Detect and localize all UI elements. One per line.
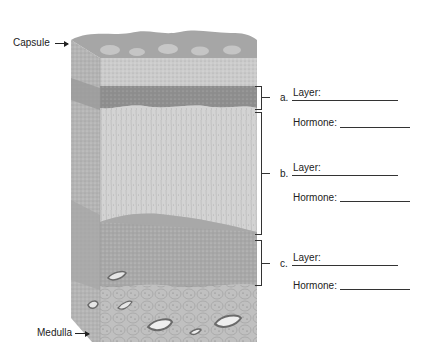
layer-c-hormone-blank[interactable] — [340, 289, 410, 290]
layer-b-hormone-blank[interactable] — [340, 201, 410, 202]
layer-a-layer-label: Layer: — [293, 87, 321, 98]
layer-c-layer-label: Layer: — [293, 252, 321, 263]
layer-b-layer-label: Layer: — [293, 162, 321, 173]
layer-a-hormone-label: Hormone: — [293, 117, 337, 128]
layer-a-hormone-blank[interactable] — [340, 127, 410, 128]
bracket-b-tick — [262, 173, 270, 174]
capsule-arrow-icon — [55, 43, 68, 44]
capsule-label: Capsule — [13, 37, 50, 48]
bracket-b — [255, 112, 262, 235]
bracket-c — [255, 240, 262, 286]
layer-a-letter: a. — [280, 92, 288, 103]
medulla-label: Medulla — [37, 327, 72, 338]
medulla-arrow-icon — [75, 333, 89, 334]
layer-b-layer-blank[interactable] — [292, 175, 398, 176]
layer-c-letter: c. — [280, 258, 288, 269]
bracket-a — [255, 86, 262, 110]
layer-b-hormone-label: Hormone: — [293, 192, 337, 203]
layer-c-layer-blank[interactable] — [292, 265, 398, 266]
bracket-c-tick — [262, 263, 270, 264]
layer-a-layer-blank[interactable] — [292, 100, 398, 101]
layer-b-letter: b. — [280, 168, 288, 179]
bracket-a-tick — [262, 97, 270, 98]
layer-c-hormone-label: Hormone: — [293, 280, 337, 291]
